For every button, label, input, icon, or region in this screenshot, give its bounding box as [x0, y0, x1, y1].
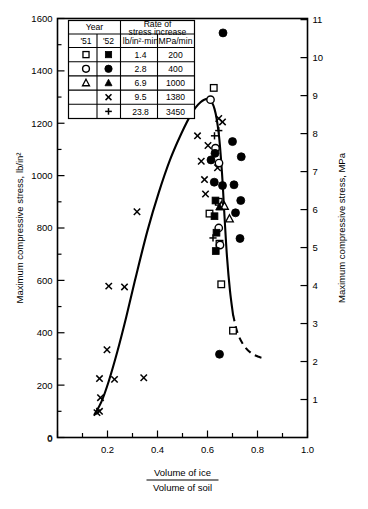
- data-point: [141, 375, 147, 381]
- legend-rate-metric: 1000: [166, 78, 185, 88]
- axis-labels: Maximum compressive stress, lb/in²Maximu…: [14, 152, 347, 493]
- data-point: [211, 213, 218, 220]
- data-point: [237, 197, 245, 205]
- legend-col-1952: '52: [103, 36, 114, 46]
- data-point: [111, 376, 117, 382]
- data-point: [219, 29, 227, 37]
- x-tick-label: 0.2: [101, 444, 114, 455]
- x-tick-label: 0.8: [251, 444, 264, 455]
- x-axis-label-numerator: Volume of ice: [154, 467, 211, 478]
- y-tick-label: 1600: [31, 13, 52, 24]
- data-point: [210, 85, 217, 92]
- chart-svg: 02004006008001000120014001600 1234567891…: [0, 0, 368, 509]
- legend-symbol-1952: [105, 65, 112, 72]
- legend-rate-metric: 3450: [166, 107, 185, 117]
- data-point: [96, 375, 102, 381]
- data-point: [226, 215, 234, 222]
- legend-symbol-1951: [83, 52, 89, 58]
- data-point: [237, 153, 245, 161]
- legend-rate-metric: 1380: [166, 92, 185, 102]
- fit-curve-dashed: [233, 314, 265, 358]
- data-point: [215, 159, 222, 166]
- data-point: [236, 234, 244, 242]
- y-tick-label-secondary: 10: [313, 52, 324, 63]
- data-point: [213, 229, 220, 236]
- y-tick-label-secondary: 2: [313, 356, 318, 367]
- legend-table: YearRate ofstress increase'51'52lb/in²·m…: [69, 19, 195, 119]
- legend-rate-imperial: 1.4: [135, 50, 147, 60]
- data-point: [104, 347, 110, 353]
- x-tick-label-zero: 0: [47, 433, 52, 444]
- y-tick-label-secondary: 9: [313, 90, 318, 101]
- y-axis-label-right: Maximum compressive stress, MPa: [336, 152, 347, 303]
- x-tick-label: 0.6: [201, 444, 214, 455]
- x-tick-label: 0.4: [151, 444, 164, 455]
- data-point: [106, 283, 112, 289]
- legend-rate-imperial: 6.9: [135, 78, 147, 88]
- legend-symbol-1951: [83, 65, 90, 72]
- y-tick-label-secondary: 11: [313, 14, 323, 25]
- legend-rate-metric: 200: [168, 50, 183, 60]
- legend-rate-metric: 400: [168, 64, 183, 74]
- data-point: [215, 127, 222, 134]
- legend-symbol-1952: [105, 51, 111, 57]
- data-point: [134, 209, 140, 215]
- data-point: [219, 182, 227, 190]
- data-point: [198, 158, 204, 164]
- data-point: [212, 248, 219, 255]
- left-axis-ticks: 02004006008001000120014001600: [31, 13, 64, 443]
- series-filled-circle: [207, 29, 245, 358]
- y-tick-label-secondary: 1: [313, 394, 318, 405]
- x-axis-label-denominator: Volume of soil: [153, 482, 212, 493]
- data-point: [216, 350, 224, 358]
- data-point: [210, 178, 218, 186]
- data-point: [211, 132, 218, 139]
- legend-rate-imperial: 9.5: [135, 92, 147, 102]
- data-point: [229, 138, 237, 146]
- data-point: [219, 119, 225, 125]
- series-cross: [94, 115, 226, 415]
- legend-col-1951: '51: [80, 36, 91, 46]
- y-tick-label-secondary: 3: [313, 318, 318, 329]
- fit-curve: [95, 99, 266, 415]
- y-tick-label: 1000: [31, 170, 52, 181]
- y-tick-label: 1400: [31, 65, 52, 76]
- legend-col-unit-metric: MPa/min: [159, 36, 193, 46]
- y-tick-label: 1200: [31, 118, 52, 129]
- y-tick-label-secondary: 5: [313, 242, 318, 253]
- data-point: [201, 176, 207, 182]
- data-point: [212, 197, 219, 204]
- data-point: [230, 181, 238, 189]
- y-axis-label-left: Maximum compressive stress, lb/in²: [14, 153, 25, 304]
- legend-rate-imperial: 23.8: [132, 107, 149, 117]
- data-point: [194, 133, 200, 139]
- y-tick-label: 600: [37, 275, 53, 286]
- legend-header-year: Year: [86, 22, 104, 32]
- right-axis-ticks: 1234567891011: [301, 14, 324, 405]
- y-tick-label-secondary: 6: [313, 204, 318, 215]
- data-point: [232, 209, 240, 217]
- data-point: [207, 96, 214, 103]
- figure-container: 02004006008001000120014001600 1234567891…: [0, 0, 368, 509]
- y-tick-label-secondary: 4: [313, 280, 318, 291]
- data-point: [202, 191, 208, 197]
- y-tick-label-secondary: 7: [313, 166, 318, 177]
- data-point: [230, 327, 237, 334]
- legend-rate-imperial: 2.8: [135, 64, 147, 74]
- data-point: [121, 284, 127, 290]
- y-tick-label: 800: [37, 222, 53, 233]
- legend-col-unit-imperial: lb/in²·min: [123, 36, 159, 46]
- data-point: [207, 156, 215, 164]
- data-point: [205, 142, 211, 148]
- y-tick-label: 200: [37, 380, 53, 391]
- y-tick-label: 400: [37, 327, 53, 338]
- y-tick-label-secondary: 8: [313, 128, 318, 139]
- data-point: [218, 281, 225, 288]
- x-axis-ticks: 0.20.40.60.81.00: [47, 431, 314, 455]
- x-tick-label: 1.0: [301, 444, 314, 455]
